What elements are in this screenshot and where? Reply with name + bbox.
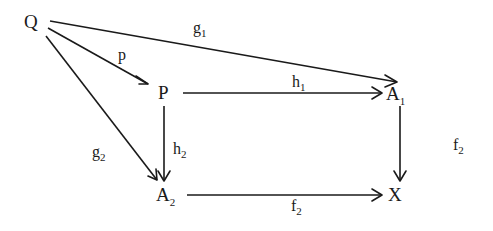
label-h1: h1 — [292, 73, 306, 93]
edge-a1-x — [394, 106, 406, 181]
label-g1: g1 — [193, 19, 207, 39]
node-a2: A2 — [156, 184, 175, 208]
commutative-diagram: Q P A1 A2 X p g1 g2 h1 h2 f2 f2 — [0, 0, 493, 231]
label-f2-right: f2 — [453, 136, 464, 156]
label-h2: h2 — [173, 140, 187, 160]
edge-p-a2 — [158, 106, 170, 181]
label-p: p — [118, 46, 126, 64]
label-f2-bottom: f2 — [291, 197, 302, 217]
edge-p-a1 — [183, 87, 382, 99]
node-p: P — [158, 82, 169, 103]
node-q: Q — [24, 11, 38, 32]
edge-a2-x — [187, 189, 382, 201]
label-g2: g2 — [92, 143, 106, 163]
edge-q-a1 — [50, 21, 397, 87]
arrowhead-icon — [136, 76, 148, 84]
node-a1: A1 — [386, 83, 405, 107]
node-x: X — [388, 184, 402, 205]
